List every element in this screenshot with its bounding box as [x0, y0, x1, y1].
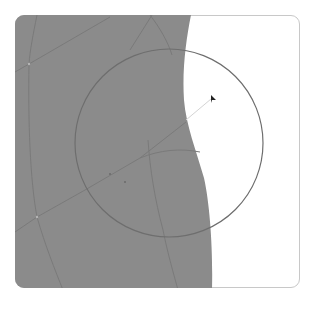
map-point: [124, 181, 126, 183]
pointer-arrow-icon[interactable]: [211, 95, 216, 103]
map-canvas[interactable]: [0, 0, 315, 310]
map-point: [109, 173, 111, 175]
map-point: [28, 63, 30, 65]
map-point: [36, 216, 38, 218]
land-mass: [15, 15, 212, 290]
pointer-line: [186, 99, 211, 120]
